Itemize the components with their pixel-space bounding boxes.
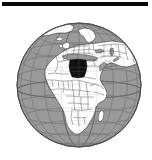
- globe-svg: [0, 0, 152, 160]
- ireland-landmass: [59, 44, 63, 48]
- highlight-region-libya: [69, 59, 87, 78]
- globe-map-container: [0, 0, 152, 160]
- locator-map-figure: [0, 0, 152, 160]
